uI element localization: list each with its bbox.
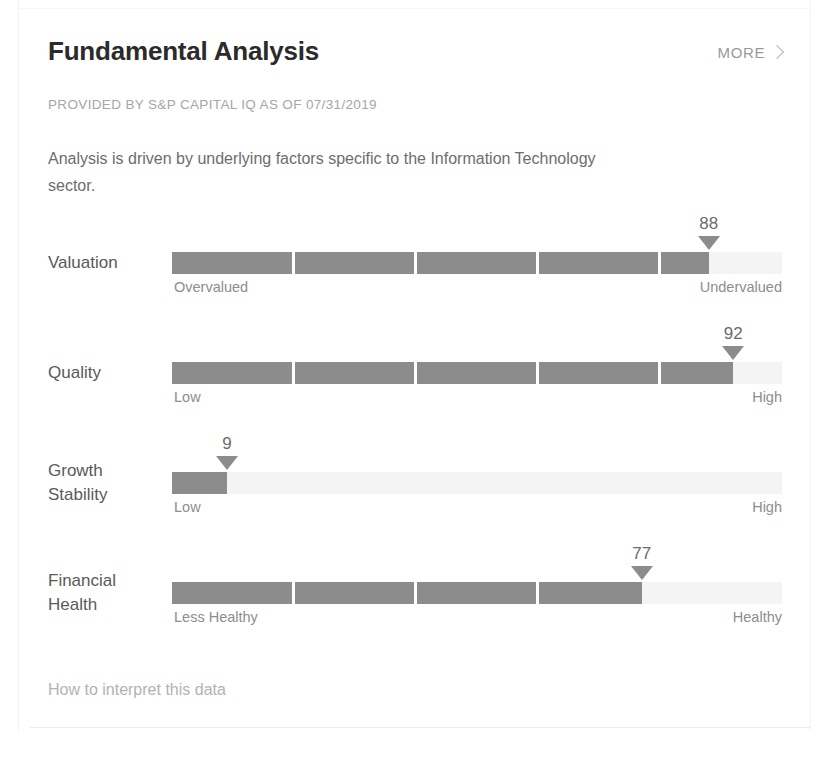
chevron-right-icon — [770, 45, 784, 59]
triangle-down-icon — [216, 456, 238, 470]
metric-label-line1: Financial — [48, 571, 116, 590]
metric-row: FinancialHealth 77 Less Healthy Healthy — [48, 545, 782, 655]
gauge-value: 88 — [689, 215, 729, 233]
metric-gauge: 9 Low High — [172, 435, 782, 515]
gauge-left-caption: Low — [174, 499, 201, 515]
metric-gauge: 77 Less Healthy Healthy — [172, 545, 782, 625]
gauge-track — [172, 472, 782, 494]
gauge-fill — [172, 472, 227, 494]
analysis-description: Analysis is driven by underlying factors… — [48, 145, 638, 199]
gauge-fill — [172, 252, 709, 274]
card-border-left — [18, 0, 19, 731]
fundamental-analysis-card: Fundamental Analysis MORE PROVIDED BY S&… — [0, 0, 829, 769]
metric-gauge: 92 Low High — [172, 325, 782, 405]
metric-label: Valuation — [48, 251, 166, 275]
metric-row: Valuation 88 Overvalued Undervalued — [48, 215, 782, 325]
data-source-attribution: PROVIDED BY S&P CAPITAL IQ AS OF 07/31/2… — [48, 97, 377, 112]
gauge-value: 92 — [713, 325, 753, 343]
gauge-left-caption: Less Healthy — [174, 609, 258, 625]
gauge-track — [172, 252, 782, 274]
more-button[interactable]: MORE — [718, 44, 782, 61]
gauge-right-caption: Undervalued — [700, 279, 782, 295]
gauge-right-caption: High — [752, 499, 782, 515]
triangle-down-icon — [722, 346, 744, 360]
metric-label: FinancialHealth — [48, 569, 166, 617]
gauge-value: 9 — [207, 435, 247, 453]
gauge-value: 77 — [622, 545, 662, 563]
gauge-right-caption: Healthy — [733, 609, 782, 625]
gauge-fill — [172, 582, 642, 604]
metric-label-line2: Health — [48, 595, 97, 614]
gauge-left-caption: Overvalued — [174, 279, 248, 295]
metric-gauge: 88 Overvalued Undervalued — [172, 215, 782, 295]
triangle-down-icon — [698, 236, 720, 250]
metric-row: GrowthStability 9 Low High — [48, 435, 782, 545]
triangle-down-icon — [631, 566, 653, 580]
gauge-marker: 88 — [689, 215, 729, 250]
metric-label: GrowthStability — [48, 459, 166, 507]
gauge-left-caption: Low — [174, 389, 201, 405]
card-border-right — [810, 0, 811, 731]
card-header: Fundamental Analysis MORE — [48, 36, 782, 70]
card-border-top — [18, 8, 810, 9]
gauge-right-caption: High — [752, 389, 782, 405]
metric-label-line1: Growth — [48, 461, 103, 480]
metrics-list: Valuation 88 Overvalued Undervalued — [48, 215, 782, 655]
gauge-marker: 77 — [622, 545, 662, 580]
how-to-interpret-link[interactable]: How to interpret this data — [48, 681, 226, 699]
gauge-fill — [172, 362, 733, 384]
page-title: Fundamental Analysis — [48, 36, 319, 67]
metric-label: Quality — [48, 361, 166, 385]
metric-row: Quality 92 Low High — [48, 325, 782, 435]
gauge-track — [172, 362, 782, 384]
gauge-marker: 92 — [713, 325, 753, 360]
gauge-marker: 9 — [207, 435, 247, 470]
gauge-track — [172, 582, 782, 604]
more-button-label: MORE — [718, 44, 765, 61]
card-bottom-divider — [30, 727, 810, 728]
metric-label-line2: Stability — [48, 485, 108, 504]
